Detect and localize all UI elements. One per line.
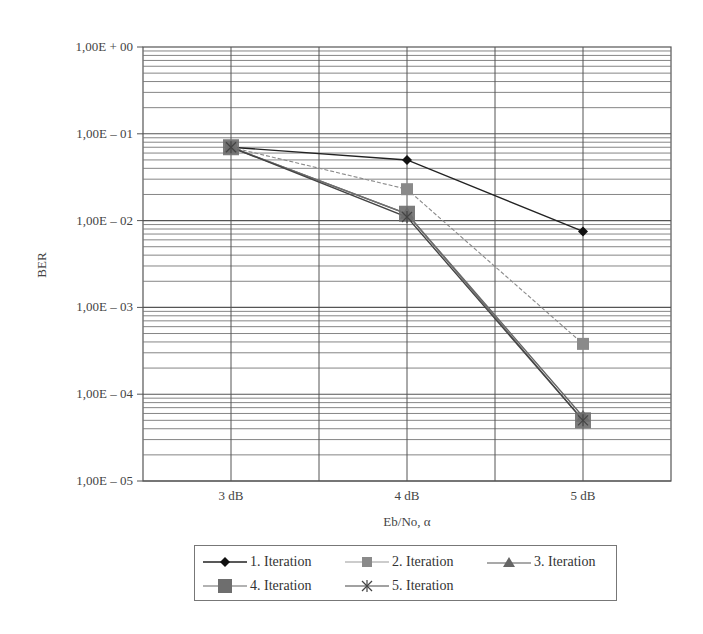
legend-label: 2. Iteration	[392, 554, 453, 570]
legend-item-iteration-3: 3. Iteration	[487, 551, 595, 573]
legend-label: 3. Iteration	[534, 554, 595, 570]
legend-label: 1. Iteration	[250, 554, 311, 570]
chart-legend: 1. Iteration 2. Iteration 3. Iteration 4…	[194, 545, 617, 601]
y-axis-tick-labels: 1,00E + 001,00E – 011,00E – 021,00E – 03…	[75, 39, 133, 488]
triangle-marker-icon	[487, 555, 531, 569]
large-square-marker-icon	[203, 578, 247, 594]
legend-item-iteration-5: 5. Iteration	[345, 575, 453, 597]
x-axis-tick-labels: 3 dB4 dB5 dB	[219, 488, 596, 503]
y-tick-label: 1,00E – 05	[76, 473, 133, 488]
y-tick-label: 1,00E + 00	[75, 39, 133, 54]
x-tick-label: 3 dB	[219, 488, 244, 503]
legend-label: 5. Iteration	[392, 578, 453, 594]
square-marker-icon	[345, 555, 389, 569]
legend-label: 4. Iteration	[250, 578, 311, 594]
x-tick-label: 4 dB	[395, 488, 420, 503]
y-tick-label: 1,00E – 03	[76, 299, 133, 314]
asterisk-marker-icon	[345, 578, 389, 594]
y-tick-label: 1,00E – 01	[76, 126, 133, 141]
x-tick-label: 5 dB	[571, 488, 596, 503]
y-tick-label: 1,00E – 04	[76, 386, 133, 401]
ber-line-chart: 1,00E + 001,00E – 011,00E – 021,00E – 03…	[0, 0, 703, 540]
diamond-marker-icon	[203, 555, 247, 569]
legend-item-iteration-1: 1. Iteration	[203, 551, 311, 573]
y-axis-title: BER	[34, 252, 49, 278]
y-tick-label: 1,00E – 02	[76, 213, 133, 228]
x-axis-title: Eb/No, α	[383, 514, 430, 529]
legend-item-iteration-4: 4. Iteration	[203, 575, 311, 597]
legend-item-iteration-2: 2. Iteration	[345, 551, 453, 573]
